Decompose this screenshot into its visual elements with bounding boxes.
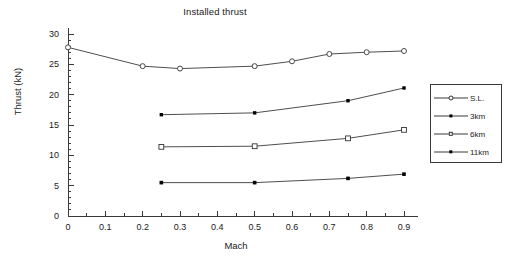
data-point-sl bbox=[402, 48, 407, 53]
series-line-11km bbox=[161, 174, 404, 182]
chart-title: Installed thrust bbox=[0, 6, 430, 17]
data-point-sl bbox=[327, 52, 332, 57]
y-tick-label: 0 bbox=[54, 211, 59, 221]
y-tick-label: 25 bbox=[49, 59, 59, 69]
data-point-sl bbox=[140, 64, 145, 69]
legend-item-11km[interactable]: 11km bbox=[431, 143, 503, 161]
series-line-3km bbox=[161, 88, 404, 115]
x-tick-label: 0.3 bbox=[174, 222, 187, 232]
data-point-6km bbox=[402, 127, 407, 132]
chart-figure: Installed thrust Thrust (kN) Mach 051015… bbox=[0, 0, 512, 264]
data-point-6km bbox=[252, 144, 257, 149]
legend-item-6km[interactable]: 6km bbox=[431, 125, 503, 143]
x-tick-label: 0 bbox=[65, 222, 70, 232]
x-tick-label: 0.4 bbox=[211, 222, 224, 232]
data-point-sl bbox=[252, 64, 257, 69]
legend-label: 6km bbox=[470, 130, 485, 139]
data-point-11km bbox=[402, 172, 406, 176]
data-point-sl bbox=[364, 50, 369, 55]
data-point-3km bbox=[160, 113, 163, 116]
data-point-3km bbox=[253, 111, 256, 114]
data-point-3km bbox=[346, 99, 349, 102]
legend-item-3km[interactable]: 3km bbox=[431, 107, 503, 125]
x-tick-label: 0.1 bbox=[99, 222, 112, 232]
series-line-6km bbox=[161, 130, 404, 147]
data-point-11km bbox=[160, 181, 164, 185]
legend-marker-open-square bbox=[434, 128, 468, 140]
legend-marker-filled-square bbox=[434, 146, 468, 158]
x-tick-label: 0.8 bbox=[360, 222, 373, 232]
legend-item-sl[interactable]: S.L. bbox=[431, 89, 503, 107]
data-point-3km bbox=[402, 86, 405, 89]
y-tick-label: 30 bbox=[49, 29, 59, 39]
x-tick-label: 0.7 bbox=[323, 222, 336, 232]
data-point-6km bbox=[159, 144, 164, 149]
y-tick-label: 15 bbox=[49, 120, 59, 130]
legend-label: S.L. bbox=[470, 94, 484, 103]
legend-marker-filled-diamond bbox=[434, 110, 468, 122]
x-tick-label: 0.6 bbox=[286, 222, 299, 232]
y-tick-label: 20 bbox=[49, 90, 59, 100]
y-tick-label: 10 bbox=[49, 150, 59, 160]
data-point-sl bbox=[66, 45, 71, 50]
data-point-sl bbox=[178, 66, 183, 71]
chart-legend: S.L.3km6km11km bbox=[430, 84, 502, 163]
data-point-11km bbox=[346, 177, 350, 181]
x-tick-label: 0.9 bbox=[398, 222, 411, 232]
y-axis-label: Thrust (kN) bbox=[12, 37, 23, 147]
data-point-11km bbox=[253, 181, 257, 185]
legend-label: 11km bbox=[470, 148, 489, 157]
legend-label: 3km bbox=[470, 112, 485, 121]
data-point-sl bbox=[290, 59, 295, 64]
x-tick-label: 0.2 bbox=[136, 222, 149, 232]
series-line-sl bbox=[68, 47, 404, 68]
data-point-6km bbox=[346, 136, 351, 141]
y-tick-label: 5 bbox=[54, 181, 59, 191]
x-axis-label: Mach bbox=[68, 240, 404, 251]
x-tick-label: 0.5 bbox=[248, 222, 261, 232]
legend-marker-open-diamond bbox=[434, 92, 468, 104]
